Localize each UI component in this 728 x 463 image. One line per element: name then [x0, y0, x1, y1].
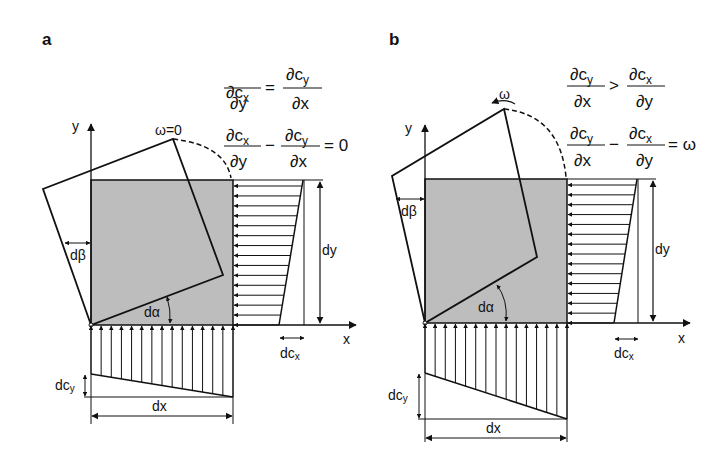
- dcx-label: dcx: [614, 345, 634, 362]
- dy-label: dy: [322, 242, 337, 258]
- x-axis-label: x: [343, 331, 350, 347]
- dcx-label: dcx: [280, 345, 300, 362]
- svg-text:>: >: [609, 76, 619, 95]
- svg-text:∂y: ∂y: [230, 94, 247, 113]
- dx-label: dx: [486, 420, 501, 436]
- element-square: [91, 180, 233, 325]
- svg-text:=: =: [265, 78, 275, 97]
- equation-2: ∂cx ∂y − ∂cy ∂x = 0: [224, 126, 348, 171]
- panel-label: b: [389, 30, 399, 49]
- rotation-arc: [173, 139, 231, 178]
- svg-text:∂cx: ∂cx: [226, 126, 249, 148]
- panel-a: a ∂cx ∂y = ∂cy ∂x ∂cx ∂y − ∂cy ∂x = 0 ω=…: [42, 30, 356, 424]
- dy-label: dy: [655, 241, 670, 257]
- svg-text:= ω: = ω: [668, 135, 696, 154]
- dx-label: dx: [152, 398, 167, 414]
- velocity-profile-x: [233, 180, 323, 325]
- svg-text:∂cy: ∂cy: [285, 126, 308, 148]
- y-axis-label: y: [405, 120, 412, 136]
- diagram-canvas: a ∂cx ∂y = ∂cy ∂x ∂cx ∂y − ∂cy ∂x = 0 ω=…: [0, 0, 728, 463]
- omega-label: ω=0: [155, 122, 182, 138]
- svg-text:∂cy: ∂cy: [570, 65, 593, 87]
- svg-text:∂x: ∂x: [292, 94, 309, 113]
- omega-label: ω: [499, 86, 510, 102]
- svg-text:∂x: ∂x: [290, 152, 307, 171]
- svg-text:∂cy: ∂cy: [286, 65, 309, 87]
- svg-text:∂y: ∂y: [636, 151, 653, 170]
- dalpha-label: dα: [144, 304, 160, 320]
- panel-b: b ∂cy ∂x > ∂cx ∂y ∂cy ∂x − ∂cx ∂y = ω ω …: [388, 30, 696, 442]
- equation-1: ∂cx ∂y = ∂cy ∂x: [224, 65, 322, 113]
- panel-label: a: [42, 30, 52, 49]
- element-square: [425, 179, 567, 323]
- svg-text:∂x: ∂x: [574, 151, 591, 170]
- svg-text:∂x: ∂x: [574, 92, 591, 111]
- svg-text:−: −: [265, 136, 275, 155]
- svg-text:∂cx: ∂cx: [629, 65, 652, 87]
- dbeta-label: dβ: [70, 247, 86, 263]
- dcy-label: dcy: [388, 387, 408, 404]
- svg-text:−: −: [609, 135, 619, 154]
- svg-text:∂y: ∂y: [230, 152, 247, 171]
- equation-1: ∂cy ∂x > ∂cx ∂y: [567, 65, 665, 111]
- dalpha-label: dα: [478, 299, 494, 315]
- svg-text:∂cy: ∂cy: [570, 124, 593, 146]
- equation-2: ∂cy ∂x − ∂cx ∂y = ω: [567, 124, 696, 170]
- svg-text:∂y: ∂y: [636, 92, 653, 111]
- y-axis-label: y: [72, 118, 79, 134]
- svg-text:= 0: = 0: [324, 136, 348, 155]
- dbeta-label: dβ: [401, 203, 417, 219]
- svg-text:∂cx: ∂cx: [629, 124, 652, 146]
- dcy-label: dcy: [55, 377, 75, 394]
- velocity-profile-x: [567, 179, 656, 323]
- rotation-arc: [504, 109, 566, 177]
- x-axis-label: x: [678, 330, 685, 346]
